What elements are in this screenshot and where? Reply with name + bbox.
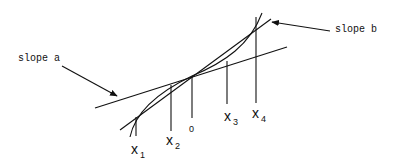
svg-text:1: 1 bbox=[140, 150, 145, 160]
slope-b-arrow bbox=[272, 22, 330, 31]
svg-text:2: 2 bbox=[175, 141, 180, 151]
svg-text:x: x bbox=[224, 108, 231, 124]
slope-a-arrow bbox=[62, 66, 117, 96]
slope-b-label: slope b bbox=[335, 24, 377, 35]
zero-label: 0 bbox=[189, 124, 194, 134]
x1-label: x 1 bbox=[131, 141, 145, 160]
slope-a-label: slope a bbox=[18, 53, 60, 64]
x4-label: x 4 bbox=[252, 105, 266, 124]
x2-label: x 2 bbox=[166, 132, 180, 151]
svg-text:4: 4 bbox=[261, 114, 266, 124]
secant-tangent-diagram: slope a slope b x 1 x 2 0 x 3 x 4 bbox=[0, 0, 398, 168]
function-curve bbox=[130, 13, 262, 137]
svg-text:3: 3 bbox=[233, 117, 238, 127]
svg-text:0: 0 bbox=[189, 124, 194, 134]
svg-text:x: x bbox=[252, 105, 259, 121]
x3-label: x 3 bbox=[224, 108, 238, 127]
svg-text:x: x bbox=[166, 132, 173, 148]
svg-text:x: x bbox=[131, 141, 138, 157]
